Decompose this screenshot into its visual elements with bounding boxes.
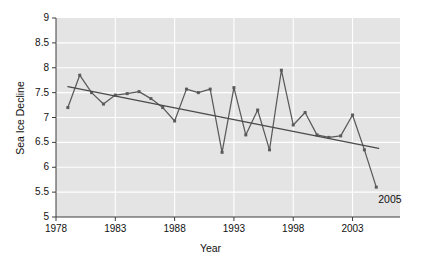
- y-tick-label: 5.5: [35, 187, 49, 197]
- y-tick-label: 8.5: [35, 38, 49, 48]
- x-tick-label: 1998: [282, 224, 304, 234]
- axis-lines-and-ticks: [0, 0, 421, 260]
- x-tick-label: 1978: [45, 224, 67, 234]
- y-tick-label: 5: [43, 212, 49, 222]
- x-tick-label: 2003: [341, 224, 363, 234]
- y-tick-label: 6.5: [35, 137, 49, 147]
- y-tick-label: 6: [43, 162, 49, 172]
- y-tick-label: 9: [43, 13, 49, 23]
- sea-ice-decline-chart: 55.566.577.588.59 1978198319881993199820…: [0, 0, 421, 260]
- annotation-2005: 2005: [378, 193, 401, 205]
- y-tick-label: 7.5: [35, 88, 49, 98]
- y-axis-title: Sea Ice Decline: [14, 81, 26, 155]
- x-axis-title: Year: [0, 242, 421, 254]
- y-tick-label: 7: [43, 113, 49, 123]
- x-tick-label: 1983: [104, 224, 126, 234]
- x-tick-label: 1993: [223, 224, 245, 234]
- x-tick-label: 1988: [163, 224, 185, 234]
- y-tick-label: 8: [43, 63, 49, 73]
